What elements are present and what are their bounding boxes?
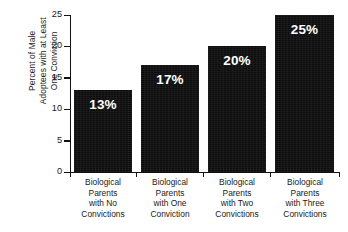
y-tick-label-10-wrap: 10 bbox=[40, 104, 62, 114]
x-category-label-2-line-3: with Two bbox=[200, 198, 274, 209]
bar-biological-parents-with-two-convictions[interactable]: 20% bbox=[208, 46, 266, 172]
y-tick-label-10: 10 bbox=[40, 104, 62, 113]
x-category-label-3: Biological Parents with Three Conviction… bbox=[267, 177, 343, 219]
y-tick-label-15-wrap: 15 bbox=[40, 73, 62, 83]
y-tick-label-0-wrap: 0 bbox=[40, 167, 62, 177]
x-category-label-2-line-2: Parents bbox=[200, 188, 274, 199]
y-axis-line bbox=[70, 15, 71, 173]
x-category-label-1-line-4: Conviction bbox=[133, 209, 207, 220]
y-tick-label-25-wrap: 25 bbox=[40, 10, 62, 20]
y-tick-label-20: 20 bbox=[40, 41, 62, 50]
x-axis-line bbox=[70, 172, 340, 173]
x-category-label-1-line-1: Biological bbox=[133, 177, 207, 188]
y-tick-label-20-wrap: 20 bbox=[40, 41, 62, 51]
x-category-label-2: Biological Parents with Two Convictions bbox=[200, 177, 274, 219]
y-tick-label-15: 15 bbox=[40, 73, 62, 82]
x-category-label-3-line-3: with Three bbox=[267, 198, 343, 209]
x-category-label-0: Biological Parents with No Convictions bbox=[66, 177, 140, 219]
x-category-label-3-line-4: Convictions bbox=[267, 209, 343, 220]
x-category-label-1-line-2: Parents bbox=[133, 188, 207, 199]
x-category-label-2-line-1: Biological bbox=[200, 177, 274, 188]
x-category-label-0-line-3: with No bbox=[66, 198, 140, 209]
x-category-label-1: Biological Parents with One Conviction bbox=[133, 177, 207, 219]
x-category-label-3-line-2: Parents bbox=[267, 188, 343, 199]
y-tick-label-25: 25 bbox=[40, 10, 62, 19]
bar-chart: Percent of Male Adoptees with at Least O… bbox=[0, 0, 348, 232]
y-tick-label-5: 5 bbox=[40, 136, 62, 145]
y-tick-label-5-wrap: 5 bbox=[40, 136, 62, 146]
bar-value-label-2: 20% bbox=[208, 54, 266, 68]
y-axis-title-line-1: Percent of Male bbox=[27, 0, 38, 147]
bar-value-label-0: 13% bbox=[74, 98, 132, 112]
x-category-label-0-line-4: Convictions bbox=[66, 209, 140, 220]
x-category-label-1-line-3: with One bbox=[133, 198, 207, 209]
bar-biological-parents-with-three-convictions[interactable]: 25% bbox=[275, 15, 334, 172]
x-category-label-3-line-1: Biological bbox=[267, 177, 343, 188]
x-category-label-0-line-1: Biological bbox=[66, 177, 140, 188]
bar-biological-parents-with-one-conviction[interactable]: 17% bbox=[141, 65, 199, 172]
x-category-label-2-line-4: Convictions bbox=[200, 209, 274, 220]
bar-value-label-3: 25% bbox=[275, 23, 334, 37]
y-tick-label-0: 0 bbox=[40, 167, 62, 176]
bar-value-label-1: 17% bbox=[141, 73, 199, 87]
bar-biological-parents-with-no-convictions[interactable]: 13% bbox=[74, 90, 132, 172]
x-category-label-0-line-2: Parents bbox=[66, 188, 140, 199]
